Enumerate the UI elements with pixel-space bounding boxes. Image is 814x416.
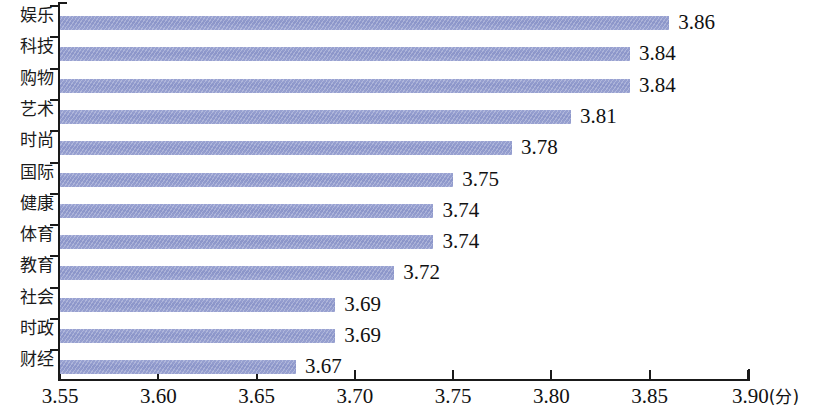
- bar-value-label: 3.75: [462, 169, 499, 190]
- x-axis-tick-label: 3.75: [435, 384, 472, 408]
- bar-value-label: 3.81: [580, 106, 617, 127]
- y-axis-tick: [50, 99, 59, 101]
- y-axis-tick: [50, 193, 59, 195]
- bar-value-label: 3.78: [521, 137, 558, 158]
- category-axis-labels: 娱乐科技购物艺术时尚国际健康体育教育社会时政财经: [0, 0, 58, 380]
- bar-value-label: 3.84: [639, 75, 676, 96]
- bar: [60, 235, 433, 249]
- x-axis-tick-label: 3.80: [533, 384, 570, 408]
- x-axis-tick-label: 3.90(分): [732, 384, 799, 409]
- y-axis-tick: [50, 318, 59, 320]
- x-axis-tick-label: 3.65: [238, 384, 275, 408]
- category-label: 科技: [0, 37, 54, 56]
- bar: [60, 47, 630, 61]
- x-axis-unit-label: (分): [769, 387, 799, 407]
- bar: [60, 204, 433, 218]
- y-axis-tick: [50, 224, 59, 226]
- horizontal-bar-chart: 娱乐科技购物艺术时尚国际健康体育教育社会时政财经 3.553.603.653.7…: [0, 0, 814, 416]
- bars-container: 3.863.843.843.813.783.753.743.743.723.69…: [60, 0, 814, 379]
- y-axis-tick: [50, 162, 59, 164]
- bar-value-label: 3.84: [639, 43, 676, 64]
- category-label: 健康: [0, 194, 54, 213]
- x-axis-tick-label: 3.70: [336, 384, 373, 408]
- y-axis-tick: [50, 287, 59, 289]
- y-axis-tick: [50, 255, 59, 257]
- y-axis-tick: [50, 130, 59, 132]
- category-label: 娱乐: [0, 6, 54, 25]
- category-label: 财经: [0, 350, 54, 369]
- y-axis-tick: [50, 5, 59, 7]
- bar: [60, 16, 669, 30]
- x-axis-tick-label: 3.60: [140, 384, 177, 408]
- category-label: 购物: [0, 69, 54, 88]
- category-label: 时政: [0, 319, 54, 338]
- y-axis-tick: [50, 68, 59, 70]
- bar-value-label: 3.67: [305, 356, 342, 377]
- x-axis-line: [58, 379, 750, 381]
- category-label: 教育: [0, 256, 54, 275]
- bar: [60, 173, 453, 187]
- category-label: 艺术: [0, 100, 54, 119]
- bar: [60, 266, 394, 280]
- bar-value-label: 3.74: [442, 231, 479, 252]
- category-label: 国际: [0, 163, 54, 182]
- x-axis-tick-label: 3.55: [42, 384, 79, 408]
- category-label: 社会: [0, 288, 54, 307]
- y-axis-tick: [50, 36, 59, 38]
- bar: [60, 79, 630, 93]
- bar-value-label: 3.72: [403, 262, 440, 283]
- y-axis-tick: [50, 349, 59, 351]
- bar-value-label: 3.69: [344, 294, 381, 315]
- bar: [60, 298, 335, 312]
- bar-value-label: 3.69: [344, 325, 381, 346]
- x-axis-tick-label: 3.85: [631, 384, 668, 408]
- bar: [60, 329, 335, 343]
- bar-value-label: 3.74: [442, 200, 479, 221]
- bar: [60, 141, 512, 155]
- bar-value-label: 3.86: [678, 12, 715, 33]
- category-label: 时尚: [0, 131, 54, 150]
- bar: [60, 110, 571, 124]
- category-label: 体育: [0, 225, 54, 244]
- bar: [60, 360, 296, 374]
